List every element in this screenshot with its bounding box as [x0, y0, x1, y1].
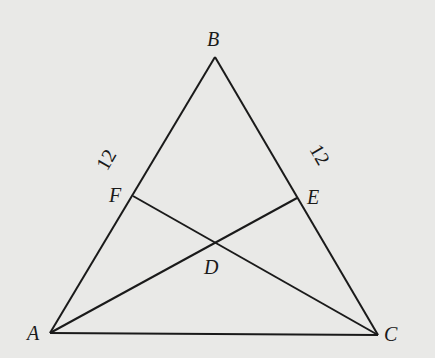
- label-C: C: [384, 323, 398, 345]
- segment-AB: [50, 57, 215, 333]
- segment-AC: [50, 333, 378, 335]
- label-A: A: [25, 322, 40, 344]
- label-F: F: [108, 184, 122, 206]
- triangle-diagram: B A C F E D 12 12: [0, 0, 435, 358]
- label-D: D: [203, 256, 219, 278]
- side-length-BE: 12: [306, 140, 335, 168]
- label-E: E: [306, 186, 319, 208]
- segment-CF: [133, 196, 378, 335]
- side-length-BF: 12: [91, 145, 120, 173]
- label-B: B: [207, 28, 219, 50]
- segment-BC: [215, 57, 378, 335]
